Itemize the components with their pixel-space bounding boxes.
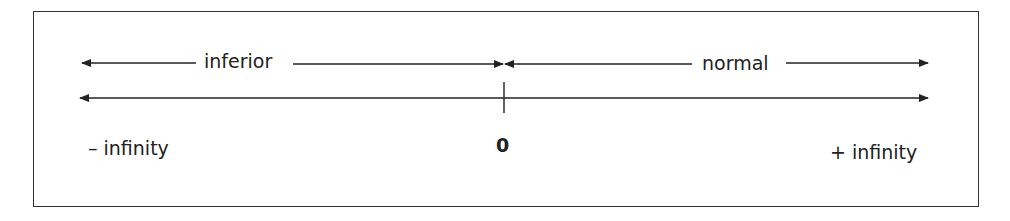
number-line-graphic [0, 0, 1010, 221]
minus-infinity-label: – infinity [88, 137, 169, 159]
inferior-label: inferior [204, 50, 272, 72]
zero-label: 0 [496, 134, 509, 156]
plus-infinity-label: + infinity [830, 141, 917, 163]
normal-label: normal [702, 52, 769, 74]
inferior-range-arrow [82, 63, 503, 64]
